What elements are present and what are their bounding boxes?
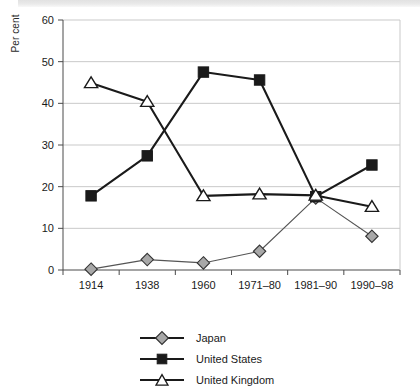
legend-marker-triangle-icon <box>140 370 184 388</box>
gridlines-group <box>63 20 400 228</box>
y-axis-tick-label: 50 <box>42 56 54 68</box>
data-point-united-states <box>142 151 152 161</box>
y-axis-ticks-group <box>58 20 63 270</box>
y-axis-tick-label: 10 <box>42 222 54 234</box>
x-axis-tick-label: 1938 <box>135 279 159 291</box>
series-line-united-states <box>91 72 372 197</box>
data-point-japan <box>366 230 378 242</box>
series-markers-group <box>84 67 378 275</box>
series-lines-group <box>91 72 372 269</box>
y-axis-tick-label: 60 <box>42 14 54 26</box>
y-axis-tick-label: 40 <box>42 97 54 109</box>
data-point-united-states <box>198 67 208 77</box>
y-axis-tick-label: 0 <box>48 264 54 276</box>
legend-marker-square-icon <box>140 349 184 369</box>
data-point-japan <box>141 253 153 265</box>
data-point-united-states <box>254 75 264 85</box>
chart-legend: Japan United States United Kingdom <box>140 327 370 388</box>
data-point-japan <box>85 263 97 275</box>
x-axis-tick-label: 1990–98 <box>351 279 394 291</box>
x-axis-tick-label: 1971–80 <box>238 279 281 291</box>
legend-label-japan: Japan <box>184 332 226 344</box>
y-axis-tick-labels-group: 0102030405060 <box>42 14 54 276</box>
legend-item-united-kingdom: United Kingdom <box>140 369 370 388</box>
x-axis-tick-label: 1981–90 <box>294 279 337 291</box>
data-point-united-kingdom <box>84 77 97 88</box>
x-axis-tick-labels-group: 1914193819601971–801981–901990–98 <box>79 279 393 291</box>
legend-item-japan: Japan <box>140 327 370 348</box>
x-axis-ticks-group <box>63 270 400 275</box>
chart-figure: Per cent 0102030405060 1914193819601971–… <box>0 0 420 388</box>
legend-marker-diamond-icon <box>140 328 184 348</box>
legend-item-united-states: United States <box>140 348 370 369</box>
x-axis-tick-label: 1914 <box>79 279 103 291</box>
data-point-united-states <box>367 160 377 170</box>
data-point-united-states <box>86 191 96 201</box>
y-axis-tick-label: 30 <box>42 139 54 151</box>
series-line-japan <box>91 198 372 269</box>
data-point-japan <box>197 257 209 269</box>
legend-label-united-kingdom: United Kingdom <box>184 374 274 386</box>
y-axis-tick-label: 20 <box>42 181 54 193</box>
x-axis-tick-label: 1960 <box>191 279 215 291</box>
legend-label-united-states: United States <box>184 353 262 365</box>
